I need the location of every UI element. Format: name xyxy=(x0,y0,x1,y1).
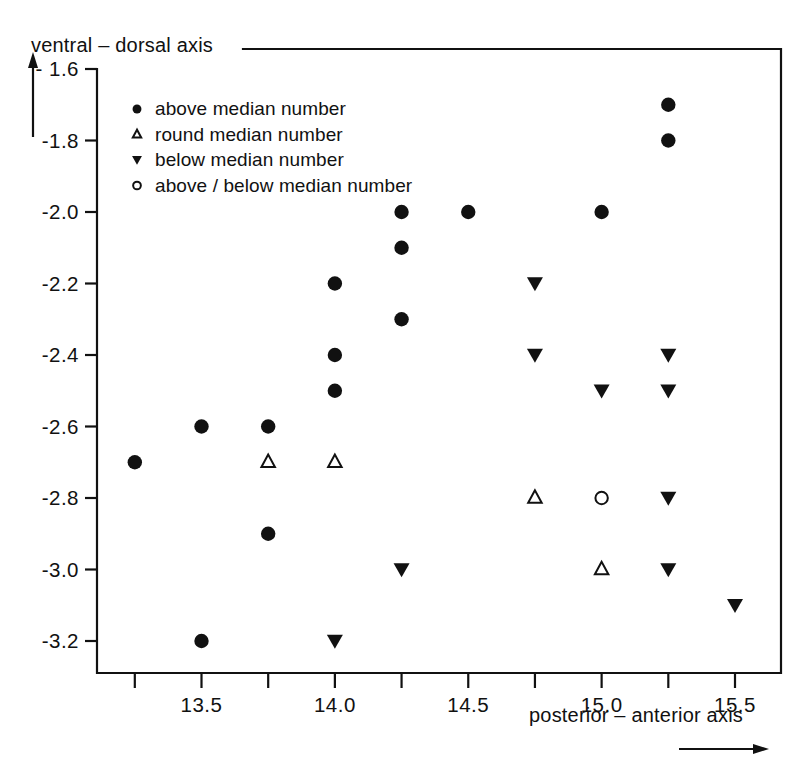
scatter-plot: - 1.6-1.8-2.0-2.2-2.4-2.6-2.8-3.0-3.2 13… xyxy=(0,0,812,779)
legend-item: above median number xyxy=(133,98,347,119)
legend-item-label: round median number xyxy=(155,124,343,145)
filled-triangle-down-marker xyxy=(660,563,676,577)
filled-triangle-down-marker xyxy=(132,156,142,165)
filled-circle-marker xyxy=(328,384,342,398)
filled-circle-marker xyxy=(594,205,608,219)
filled-circle-marker xyxy=(194,419,208,433)
legend-item-label: below median number xyxy=(155,149,344,170)
data-point-filled-circle xyxy=(261,527,275,541)
open-triangle-marker xyxy=(261,455,275,468)
filled-circle-marker xyxy=(394,205,408,219)
data-point-filled-circle xyxy=(394,241,408,255)
data-point-open-triangle-up xyxy=(595,562,609,575)
series-open-triangle-up xyxy=(261,455,608,575)
y-tick-label: - 1.6 xyxy=(35,57,79,80)
data-point-open-triangle-up xyxy=(133,130,141,138)
data-point-filled-circle xyxy=(394,205,408,219)
legend-item: above / below median number xyxy=(133,175,413,196)
y-axis-tick-labels: - 1.6-1.8-2.0-2.2-2.4-2.6-2.8-3.0-3.2 xyxy=(35,57,79,652)
filled-triangle-down-marker xyxy=(527,349,543,363)
open-triangle-marker xyxy=(595,562,609,575)
filled-circle-marker xyxy=(328,276,342,290)
y-tick-label: -2.6 xyxy=(42,415,79,438)
filled-triangle-down-marker xyxy=(660,384,676,398)
y-tick-label: -2.8 xyxy=(42,486,79,509)
data-point-filled-triangle-down xyxy=(660,563,676,577)
data-point-filled-circle xyxy=(194,419,208,433)
figure-container: - 1.6-1.8-2.0-2.2-2.4-2.6-2.8-3.0-3.2 13… xyxy=(0,0,812,779)
data-point-filled-triangle-down xyxy=(660,384,676,398)
x-axis-direction-arrow xyxy=(679,744,769,754)
filled-circle-marker xyxy=(261,527,275,541)
data-point-filled-triangle-down xyxy=(394,563,410,577)
y-tick-label: -3.0 xyxy=(42,558,79,581)
y-axis-title: ventral – dorsal axis xyxy=(31,34,213,56)
data-point-filled-triangle-down xyxy=(527,349,543,363)
data-point-filled-circle xyxy=(194,634,208,648)
data-point-open-triangle-up xyxy=(528,490,542,503)
legend-item-label: above median number xyxy=(155,98,347,119)
filled-circle-marker xyxy=(661,133,675,147)
y-tick-label: -1.8 xyxy=(42,129,79,152)
data-point-filled-triangle-down xyxy=(527,277,543,291)
data-point-filled-triangle-down xyxy=(727,599,743,613)
open-triangle-marker xyxy=(328,455,342,468)
y-tick-label: -2.2 xyxy=(42,272,79,295)
data-point-filled-circle xyxy=(394,312,408,326)
filled-triangle-down-marker xyxy=(594,384,610,398)
data-point-filled-circle xyxy=(128,455,142,469)
data-point-open-circle xyxy=(595,492,607,504)
data-point-filled-triangle-down xyxy=(660,492,676,506)
filled-triangle-down-marker xyxy=(660,492,676,506)
data-point-filled-triangle-down xyxy=(327,635,343,649)
legend-item: below median number xyxy=(132,149,344,170)
data-point-filled-circle xyxy=(594,205,608,219)
series-open-circle xyxy=(595,492,607,504)
data-point-filled-circle xyxy=(661,133,675,147)
x-tick-label: 14.0 xyxy=(314,693,356,716)
filled-triangle-down-marker xyxy=(394,563,410,577)
filled-circle-marker xyxy=(461,205,475,219)
data-point-filled-circle xyxy=(661,98,675,112)
data-point-open-circle xyxy=(133,182,141,190)
data-point-filled-circle xyxy=(133,105,142,114)
y-axis-ticks xyxy=(85,69,97,641)
data-point-filled-circle xyxy=(328,348,342,362)
legend: above median numberround median numberbe… xyxy=(132,98,413,196)
legend-item-label: above / below median number xyxy=(155,175,413,196)
filled-circle-marker xyxy=(661,98,675,112)
filled-circle-marker xyxy=(394,312,408,326)
filled-triangle-down-marker xyxy=(327,635,343,649)
x-axis-title: posterior – anterior axis xyxy=(529,704,743,726)
filled-circle-marker xyxy=(133,105,142,114)
filled-triangle-down-marker xyxy=(527,277,543,291)
data-point-open-triangle-up xyxy=(328,455,342,468)
data-point-filled-triangle-down xyxy=(660,349,676,363)
open-circle-marker xyxy=(133,182,141,190)
filled-circle-marker xyxy=(261,419,275,433)
open-triangle-marker xyxy=(133,130,141,138)
y-tick-label: -2.4 xyxy=(42,343,79,366)
x-tick-label: 14.5 xyxy=(447,693,489,716)
y-tick-label: -2.0 xyxy=(42,200,79,223)
filled-circle-marker xyxy=(128,455,142,469)
data-point-filled-circle xyxy=(461,205,475,219)
y-tick-label: -3.2 xyxy=(42,629,79,652)
filled-triangle-down-marker xyxy=(660,349,676,363)
filled-triangle-down-marker xyxy=(727,599,743,613)
open-triangle-marker xyxy=(528,490,542,503)
data-point-filled-circle xyxy=(328,276,342,290)
filled-circle-marker xyxy=(328,348,342,362)
open-circle-marker xyxy=(595,492,607,504)
data-point-filled-triangle-down xyxy=(132,156,142,165)
filled-circle-marker xyxy=(194,634,208,648)
data-point-filled-circle xyxy=(261,419,275,433)
data-point-open-triangle-up xyxy=(261,455,275,468)
series-filled-triangle-down xyxy=(327,277,743,649)
filled-circle-marker xyxy=(394,241,408,255)
x-tick-label: 13.5 xyxy=(181,693,223,716)
data-point-filled-triangle-down xyxy=(594,384,610,398)
data-point-filled-circle xyxy=(328,384,342,398)
legend-item: round median number xyxy=(133,124,344,145)
x-axis-ticks xyxy=(135,673,735,688)
